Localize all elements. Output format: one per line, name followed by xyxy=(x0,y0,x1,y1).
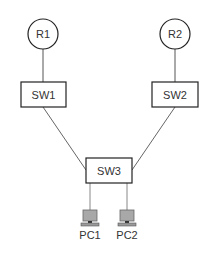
link-sw2-sw3 xyxy=(132,107,175,170)
switch-sw2-label: SW2 xyxy=(163,89,187,101)
pc2-label: PC2 xyxy=(116,229,137,241)
computer-icon xyxy=(118,210,136,226)
pc1-label: PC1 xyxy=(79,229,100,241)
network-diagram: R1 R2 SW1 SW2 SW3 PC1 PC2 xyxy=(0,0,211,255)
switch-sw3: SW3 xyxy=(86,158,132,183)
switch-sw1-label: SW1 xyxy=(32,89,56,101)
link-sw1-sw3 xyxy=(43,107,86,170)
router-r1: R1 xyxy=(28,19,58,49)
pc2: PC2 xyxy=(116,210,137,241)
router-r1-label: R1 xyxy=(36,28,50,40)
router-r2: R2 xyxy=(160,19,190,49)
switch-sw2: SW2 xyxy=(152,82,198,107)
switch-sw1: SW1 xyxy=(21,82,66,107)
computer-icon xyxy=(81,210,99,226)
router-r2-label: R2 xyxy=(168,28,182,40)
switch-sw3-label: SW3 xyxy=(97,165,121,177)
pc1: PC1 xyxy=(79,210,100,241)
